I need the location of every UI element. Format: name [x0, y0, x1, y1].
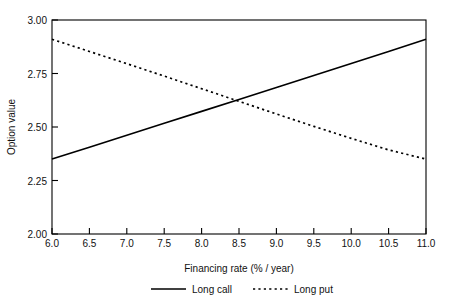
- series-line-long-call: [52, 39, 426, 159]
- y-tick-labels: 3.00 2.75 2.50 2.25 2.00: [28, 15, 48, 240]
- y-tick-label: 3.00: [28, 15, 48, 26]
- x-tick-label: 6.5: [82, 238, 96, 249]
- x-tick-label: 10.0: [341, 238, 361, 249]
- chart-legend: Long call Long put: [151, 284, 333, 295]
- x-tick-label: 8.0: [195, 238, 209, 249]
- chart-figure: 3.00 2.75 2.50 2.25 2.00 6.0 6.5 7.0 7.5: [0, 0, 451, 304]
- y-tick-label: 2.25: [28, 176, 48, 187]
- x-axis-title: Financing rate (% / year): [184, 263, 294, 274]
- x-tickmarks: [52, 228, 426, 234]
- y-axis-title: Option value: [6, 98, 17, 155]
- x-tick-label: 11.0: [417, 238, 436, 249]
- x-tick-label: 6.0: [45, 238, 59, 249]
- x-tick-label: 10.5: [379, 238, 399, 249]
- x-tick-label: 7.5: [157, 238, 171, 249]
- plot-frame: [52, 20, 426, 234]
- x-tick-label: 9.0: [269, 238, 283, 249]
- x-tick-label: 9.5: [307, 238, 321, 249]
- legend-label-long-put: Long put: [294, 284, 333, 295]
- x-tick-label: 7.0: [120, 238, 134, 249]
- legend-label-long-call: Long call: [192, 284, 232, 295]
- option-value-vs-financing-rate-chart: 3.00 2.75 2.50 2.25 2.00 6.0 6.5 7.0 7.5: [0, 0, 451, 304]
- y-tick-label: 2.75: [28, 69, 48, 80]
- x-tick-labels: 6.0 6.5 7.0 7.5 8.0 8.5 9.0 9.5 10.0 10.…: [45, 238, 436, 249]
- x-tick-label: 8.5: [232, 238, 246, 249]
- y-tickmarks: [52, 20, 58, 234]
- y-tick-label: 2.50: [28, 122, 48, 133]
